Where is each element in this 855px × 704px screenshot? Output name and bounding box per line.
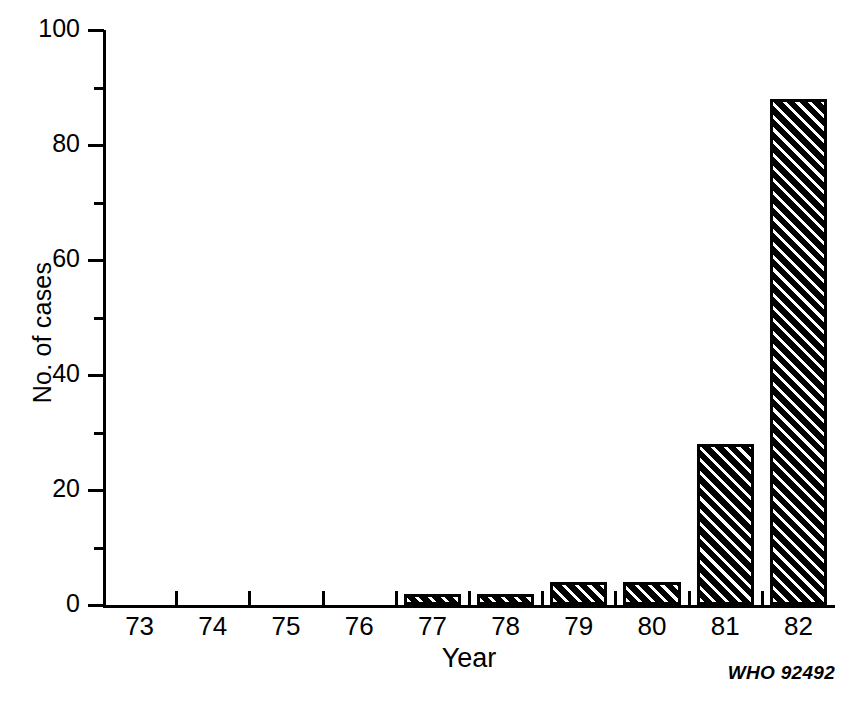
x-axis-tick xyxy=(248,591,251,605)
x-axis-tick-label: 80 xyxy=(612,612,692,641)
x-axis-tick-label: 77 xyxy=(392,612,472,641)
who-credit-label: WHO 92492 xyxy=(600,662,835,684)
x-axis-tick xyxy=(395,591,398,605)
x-axis-tick xyxy=(541,591,544,605)
bar xyxy=(477,594,534,606)
x-axis-tick-label: 79 xyxy=(539,612,619,641)
x-axis-tick-label: 82 xyxy=(758,612,838,641)
x-axis-tick xyxy=(761,591,764,605)
x-axis-tick-label: 74 xyxy=(173,612,253,641)
x-axis-tick-label: 75 xyxy=(246,612,326,641)
x-axis-tick-label: 78 xyxy=(466,612,546,641)
bar xyxy=(770,99,827,605)
x-axis-tick-label: 76 xyxy=(319,612,399,641)
x-axis-tick-label: 81 xyxy=(685,612,765,641)
x-axis-spine xyxy=(103,605,835,608)
x-axis-tick xyxy=(175,591,178,605)
x-axis-tick xyxy=(468,591,471,605)
x-axis-tick xyxy=(322,591,325,605)
x-axis-tick xyxy=(614,591,617,605)
bar-chart: No. of cases 020406080100 73747576777879… xyxy=(0,0,855,704)
x-axis-tick-label: 73 xyxy=(100,612,180,641)
bar xyxy=(404,594,461,606)
x-axis-tick xyxy=(688,591,691,605)
bar xyxy=(697,444,754,605)
bar-series xyxy=(0,0,855,704)
bar xyxy=(550,582,607,605)
bar xyxy=(623,582,680,605)
